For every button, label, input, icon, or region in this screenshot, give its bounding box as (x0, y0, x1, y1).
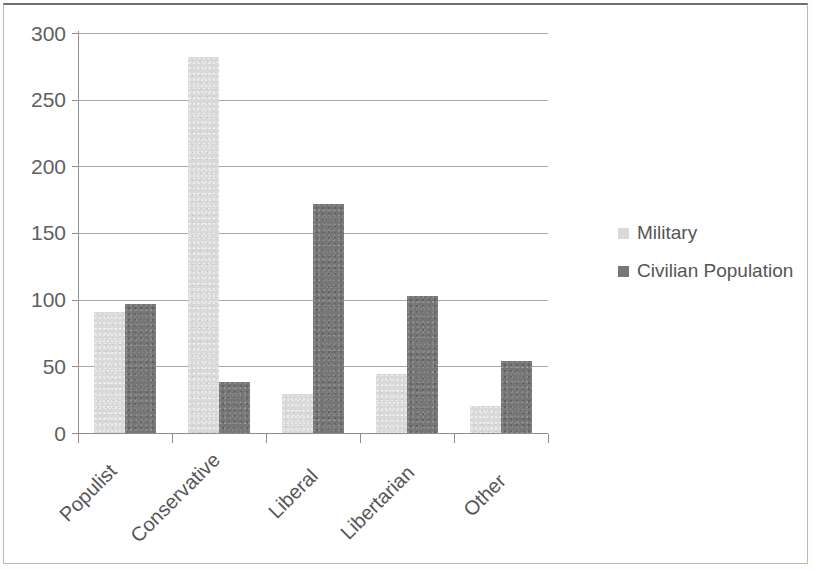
bar-liberal-military[interactable] (282, 394, 313, 433)
bar-libertarian-military[interactable] (376, 374, 407, 433)
gridline-300 (78, 33, 548, 34)
bar-other-civilian[interactable] (501, 361, 532, 433)
x-tick-mark-5 (548, 434, 549, 443)
x-tick-mark-0 (78, 434, 79, 443)
legend-label-civilian-population: Civilian Population (637, 260, 793, 282)
x-tick-mark-2 (266, 434, 267, 443)
gridline-200 (78, 166, 548, 167)
x-tick-mark-3 (360, 434, 361, 443)
bar-libertarian-civilian[interactable] (407, 296, 438, 433)
bar-liberal-civilian[interactable] (313, 204, 344, 433)
x-axis-label-libertarian: Libertarian (336, 461, 419, 544)
x-axis-line (78, 433, 548, 434)
y-tick-label-100: 100 (6, 289, 66, 310)
legend-swatch-military-icon (618, 228, 629, 239)
x-axis-label-conservative: Conservative (126, 448, 225, 547)
legend-item-civilian-population[interactable]: Civilian Population (618, 252, 808, 290)
y-tick-label-150: 150 (6, 222, 66, 243)
y-tick-label-0: 0 (6, 423, 66, 444)
y-tick-label-200: 200 (6, 156, 66, 177)
x-axis-label-liberal: Liberal (264, 465, 323, 524)
y-tick-label-300: 300 (6, 23, 66, 44)
bar-conservative-military[interactable] (188, 57, 219, 433)
bar-other-military[interactable] (470, 406, 501, 433)
x-tick-mark-4 (454, 434, 455, 443)
bar-populist-civilian[interactable] (125, 304, 156, 433)
x-tick-mark-1 (172, 434, 173, 443)
legend-swatch-civilian-icon (618, 266, 629, 277)
y-axis-labels: 300 250 200 150 100 50 0 (0, 0, 66, 570)
bar-conservative-civilian[interactable] (219, 382, 250, 433)
y-tick-label-50: 50 (6, 356, 66, 377)
legend-label-military: Military (637, 222, 697, 244)
chart-page: 300 250 200 150 100 50 0 (0, 0, 813, 570)
plot-area (78, 33, 548, 433)
x-axis-label-other: Other (459, 470, 511, 522)
grouped-bar-chart: 300 250 200 150 100 50 0 (0, 0, 813, 570)
y-tick-label-250: 250 (6, 89, 66, 110)
bar-populist-military[interactable] (94, 312, 125, 433)
chart-legend: Military Civilian Population (618, 214, 808, 290)
legend-item-military[interactable]: Military (618, 214, 808, 252)
gridline-250 (78, 100, 548, 101)
